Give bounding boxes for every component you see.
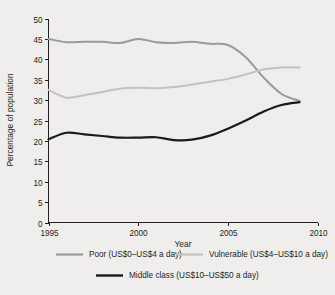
y-tick-label: 10 <box>33 179 43 188</box>
y-tick-label: 5 <box>38 199 43 208</box>
legend-label-0: Poor (US$0–US$4 a day) <box>89 250 182 259</box>
x-axis-title: Year <box>175 239 192 249</box>
chart-figure: 05101520253035404550 1995200020052010 Ye… <box>0 0 335 295</box>
y-tick-label: 50 <box>33 16 43 25</box>
y-tick-label: 40 <box>33 56 43 65</box>
x-tick-label: 2005 <box>219 229 238 238</box>
y-tick-label: 0 <box>38 220 43 229</box>
y-tick-label: 35 <box>33 77 43 86</box>
x-tick-label: 1995 <box>40 229 59 238</box>
x-tick-label: 2000 <box>129 229 148 238</box>
y-tick-label: 30 <box>33 97 43 106</box>
y-axis-title: Percentage of population <box>5 73 15 166</box>
y-tick-label: 45 <box>33 36 43 45</box>
line-chart: 05101520253035404550 1995200020052010 Ye… <box>0 0 335 295</box>
x-tick-label: 2010 <box>309 229 328 238</box>
legend-label-2: Middle class (US$10–US$50 a day) <box>129 271 259 280</box>
legend-label-1: Vulnerable (US$4–US$10 a day) <box>209 250 328 259</box>
y-tick-label: 20 <box>33 138 43 147</box>
y-tick-label: 25 <box>33 118 43 127</box>
y-tick-label: 15 <box>33 158 43 167</box>
